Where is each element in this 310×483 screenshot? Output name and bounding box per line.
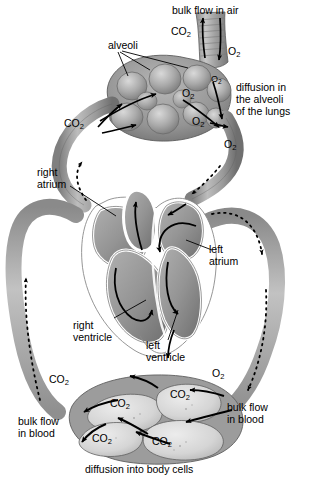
diffusion-lungs-line2: the alveoli <box>236 93 283 105</box>
bulk-flow-blood-left-line1: bulk flow <box>18 415 59 427</box>
left-ventricle-line2: ventricle <box>146 351 185 363</box>
bulk-flow-blood-left-line2: in blood <box>18 427 55 439</box>
bulk-flow-blood-right-line1: bulk flow <box>227 401 268 413</box>
trachea-shape <box>196 12 228 68</box>
co2-cell-3-label: CO2 <box>92 433 112 444</box>
diffusion-lungs-line3: of the lungs <box>236 105 290 117</box>
bulk-flow-blood-right-line2: in blood <box>227 413 264 425</box>
co2-cell-1-label: CO2 <box>110 398 130 409</box>
o2-alveolus-a-label: O2 <box>182 88 194 99</box>
left-ventricle-line1: left <box>146 339 160 351</box>
right-ventricle-line2: ventricle <box>73 331 112 343</box>
o2-alveolus-c-label: O2 <box>192 116 204 127</box>
o2-alveolus-b-label: O2 <box>211 74 222 85</box>
bulk-flow-dotted-aorta <box>212 213 266 390</box>
co2-vena-cava-label: CO2 <box>49 374 69 385</box>
diffusion-lungs-line1: diffusion in <box>236 81 286 93</box>
right-atrium-line2: atrium <box>37 178 66 190</box>
o2-pulmonary-vein-label: O2 <box>224 139 236 150</box>
body-cells-shape <box>69 375 243 464</box>
co2-pulmonary-artery-label: CO2 <box>64 118 84 129</box>
alveoli-label: alveoli <box>108 39 138 51</box>
left-atrium-line2: atrium <box>209 255 238 267</box>
right-atrium-line1: right <box>37 166 57 178</box>
o2-aorta-label: O2 <box>212 368 224 379</box>
bulk-flow-air-label: bulk flow in air <box>172 4 239 16</box>
left-atrium-line1: left <box>209 243 223 255</box>
gas-exchange-diagram: bulk flow in air CO2 O2 alveoli diffusio… <box>0 0 310 483</box>
diffusion-body-cells-caption: diffusion into body cells <box>85 463 193 475</box>
co2-cell-4-label: CO2 <box>152 436 172 447</box>
co2-cell-2-label: CO2 <box>170 389 190 400</box>
o2-trachea-label: O2 <box>228 46 240 57</box>
right-ventricle-line1: right <box>73 319 93 331</box>
co2-trachea-label: CO2 <box>171 26 191 37</box>
